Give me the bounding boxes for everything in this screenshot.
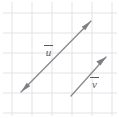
vector-v <box>71 57 106 96</box>
vector-diagram: u v <box>0 0 119 118</box>
diagram-canvas <box>0 0 119 118</box>
vector-v-arrowhead-end <box>96 57 106 65</box>
vector-v-label: v <box>90 77 99 90</box>
grid-lines <box>3 2 117 116</box>
vector-u-label: u <box>44 45 53 58</box>
vector-v-label-text: v <box>90 79 99 90</box>
vector-u-label-text: u <box>44 47 53 58</box>
